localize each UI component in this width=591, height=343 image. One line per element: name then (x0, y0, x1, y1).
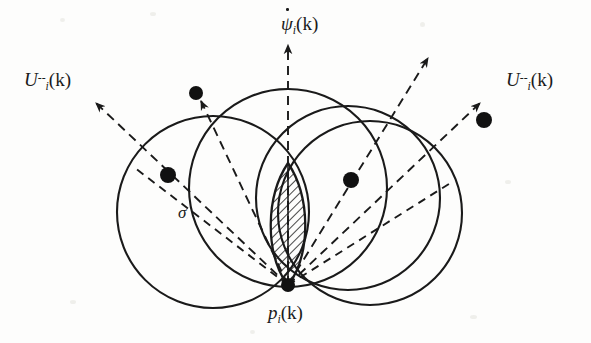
label-u-right-arg: (k) (531, 69, 553, 90)
ray-u-left (96, 103, 288, 285)
ray-chord-right (288, 182, 452, 285)
label-u-right-sup: -- (520, 71, 528, 84)
label-u-left: U--i(k) (24, 70, 71, 93)
scan-speck (505, 180, 511, 184)
scan-speck (470, 315, 477, 319)
diagram-svg (0, 0, 591, 343)
scan-speck (150, 12, 156, 16)
label-u-right-base: U (506, 69, 520, 90)
label-sigma-base: σ (178, 203, 186, 222)
scan-speck (420, 22, 425, 27)
label-psi-heading-rate: ψi(k) (281, 14, 318, 37)
scan-speck (70, 300, 76, 304)
label-u-right: U--i(k) (506, 70, 553, 93)
label-sigma: σ (178, 204, 186, 221)
label-u-left-base: U (24, 69, 38, 90)
agent-dot-upper-left (189, 86, 203, 100)
label-psi-base: ψ (281, 14, 293, 33)
label-p-base: p (268, 302, 278, 323)
origin-point-p (281, 278, 295, 292)
scan-speck (60, 18, 65, 22)
ray-chord-left (135, 168, 288, 285)
figure-canvas: U--i(k) U--i(k) ψi(k) pi(k) σ (0, 0, 591, 343)
label-u-left-arg: (k) (49, 69, 71, 90)
label-u-left-sup: -- (38, 71, 46, 84)
scan-speck (250, 330, 255, 334)
agent-dot-left (160, 167, 176, 183)
label-p-position: pi(k) (268, 303, 303, 326)
agent-dot-upper-right (476, 112, 492, 128)
label-psi-arg: (k) (296, 13, 318, 34)
label-p-arg: (k) (281, 302, 303, 323)
agent-dot-right (343, 172, 359, 188)
